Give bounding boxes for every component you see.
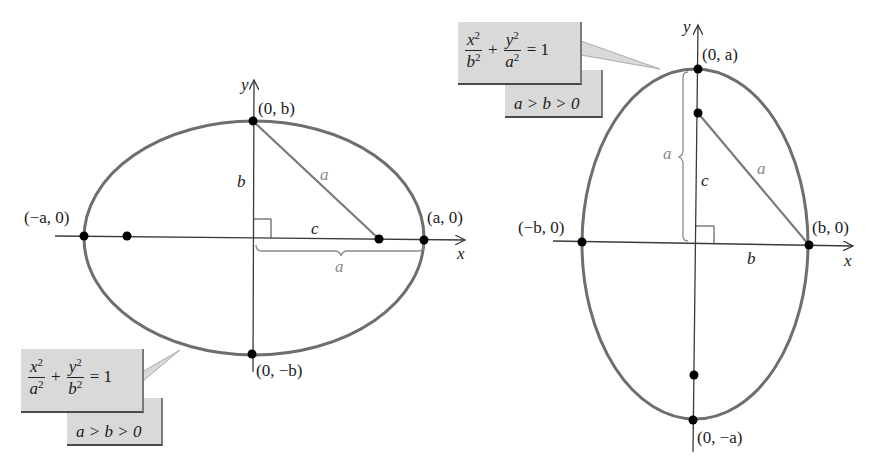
left-brace-a [256,245,424,256]
right-callout-pointer [581,41,660,69]
right-y-axis [693,25,698,452]
left-point-bottom-vertex [248,350,257,359]
left-equation: x2 a2 + y2 b2 = 1 [28,357,112,398]
left-brace-a-label: a [335,258,344,275]
left-eq-plus: + [51,367,61,387]
right-top-vertex-label: (0, a) [702,46,738,63]
right-condition-text: a > b > 0 [514,94,579,114]
right-eq-equals-one: = 1 [527,40,549,60]
left-eq-y-term: y2 b2 [67,357,84,398]
right-eq-x-term: x2 b2 [465,30,482,71]
right-equation: x2 b2 + y2 a2 = 1 [465,30,549,71]
right-point-right-vertex [805,241,814,250]
left-bottom-vertex-label: (0, −b) [256,362,302,379]
right-hypotenuse [698,113,809,245]
right-point-top-vertex [694,65,703,74]
right-y-axis-label: y [683,18,691,35]
left-hypotenuse-a-label: a [320,166,329,183]
left-segment-c-label: c [311,220,319,237]
left-x-axis-label: x [457,245,465,262]
right-point-lower-focus [690,371,699,380]
right-x-axis-label: x [844,252,852,269]
left-ellipse-group [55,80,465,382]
right-right-vertex-label: (b, 0) [812,219,849,236]
right-segment-c-label: c [701,172,709,189]
left-condition-text: a > b > 0 [76,422,141,442]
left-callout-pointer [142,350,180,382]
right-hypotenuse-a-label: a [757,160,766,177]
left-point-left-vertex [80,232,89,241]
right-segment-b-label: b [747,250,756,267]
left-y-axis-label: y [241,76,249,93]
left-point-top-vertex [249,117,258,126]
left-point-right-vertex [420,236,429,245]
right-point-bottom-vertex [689,416,698,425]
right-eq-y-term: y2 a2 [504,30,521,71]
right-left-vertex-label: (−b, 0) [518,219,564,236]
right-right-angle-mark [695,226,714,243]
left-left-vertex-label: (−a, 0) [24,209,69,226]
left-x-axis [55,236,465,240]
left-top-vertex-label: (0, b) [258,100,295,117]
left-point-right-focus [375,235,384,244]
right-bottom-vertex-label: (0, −a) [697,429,742,446]
ellipse-diagram: y (0, b) b a (−a, 0) (a, 0) c x a (0, −b… [0,0,877,470]
left-eq-x-term: x2 a2 [28,357,45,398]
left-segment-b-label: b [237,173,246,190]
right-point-left-vertex [578,238,587,247]
left-right-angle-mark [254,219,271,238]
right-point-upper-focus [694,109,703,118]
left-eq-equals-one: = 1 [90,367,112,387]
left-right-vertex-label: (a, 0) [427,209,463,226]
right-equation-box: x2 b2 + y2 a2 = 1 [458,22,582,85]
left-equation-box: x2 a2 + y2 b2 = 1 [21,349,144,413]
right-eq-plus: + [488,40,498,60]
left-point-left-focus [123,232,132,241]
right-brace-a-label: a [663,145,672,162]
right-brace-a [679,72,688,241]
